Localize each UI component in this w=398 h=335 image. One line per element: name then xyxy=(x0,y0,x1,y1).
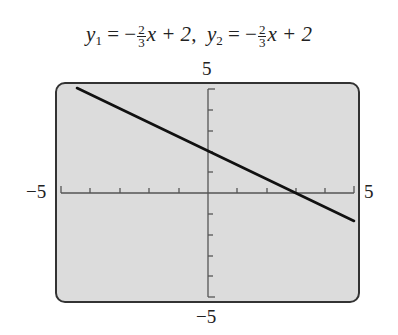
calculator-screen xyxy=(0,0,398,335)
